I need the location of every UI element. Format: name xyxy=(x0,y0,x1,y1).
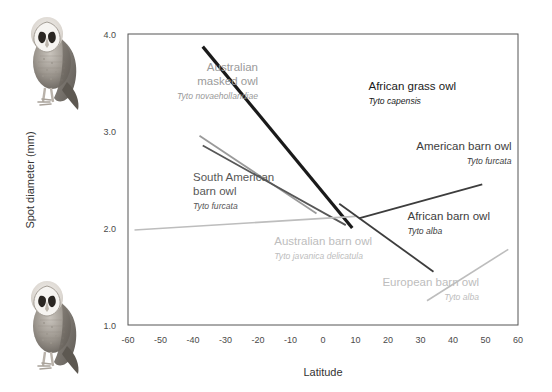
x-axis-ticks: -60-50-40-30-20-100102030405060 xyxy=(121,335,523,345)
series-annotation: South Americanbarn owlTyto furcata xyxy=(193,171,274,211)
series-scientific-name: Tyto javanica delicatula xyxy=(274,251,363,261)
x-tick-label: -10 xyxy=(284,335,297,345)
series-annotation: American barn owlTyto furcata xyxy=(416,140,511,166)
series-annotation: Australian barn owlTyto javanica delicat… xyxy=(274,235,372,261)
series-common-name: South American xyxy=(193,171,274,183)
x-tick-label: -50 xyxy=(154,335,167,345)
series-scientific-name: Tyto furcata xyxy=(193,201,238,211)
x-tick-label: 30 xyxy=(415,335,425,345)
y-axis-ticks: 1.02.03.04.0 xyxy=(103,30,116,331)
series-scientific-name: Tyto alba xyxy=(408,226,443,236)
series-annotation: African barn owlTyto alba xyxy=(408,210,490,236)
series-common-name: African barn owl xyxy=(408,210,490,222)
series-common-name: Australian barn owl xyxy=(274,235,372,247)
series-common-name: African grass owl xyxy=(369,80,457,92)
x-tick-label: 40 xyxy=(448,335,458,345)
series-common-name: Australian xyxy=(207,61,258,73)
series-annotation: African grass owlTyto capensis xyxy=(369,80,457,106)
y-axis-title: Spot diameter (mm) xyxy=(24,131,36,228)
barn-owl-illustration-top xyxy=(31,17,79,110)
x-tick-label: -40 xyxy=(186,335,199,345)
series-scientific-name: Tyto furcata xyxy=(467,156,512,166)
series-scientific-name: Tyto capensis xyxy=(369,96,422,106)
y-tick-label: 1.0 xyxy=(103,321,116,331)
series-common-name: European barn owl xyxy=(382,276,479,288)
series-common-name: masked owl xyxy=(197,75,258,87)
series-common-name: American barn owl xyxy=(416,140,511,152)
x-axis-title: Latitude xyxy=(303,366,342,378)
series-annotations: African grass owlTyto capensisAustralian… xyxy=(177,61,512,302)
x-tick-label: -30 xyxy=(219,335,232,345)
x-tick-label: 50 xyxy=(480,335,490,345)
x-tick-label: -60 xyxy=(121,335,134,345)
owl-spot-diameter-figure: -60-50-40-30-20-100102030405060 1.02.03.… xyxy=(0,0,552,392)
series-line xyxy=(135,216,356,230)
x-tick-label: 10 xyxy=(350,335,360,345)
y-tick-label: 4.0 xyxy=(103,30,116,40)
y-tick-label: 2.0 xyxy=(103,224,116,234)
x-tick-label: 60 xyxy=(513,335,523,345)
series-scientific-name: Tyto alba xyxy=(444,292,479,302)
x-tick-label: 0 xyxy=(320,335,325,345)
x-tick-label: -20 xyxy=(251,335,264,345)
chart-canvas: -60-50-40-30-20-100102030405060 1.02.03.… xyxy=(0,0,552,392)
x-tick-label: 20 xyxy=(383,335,393,345)
series-scientific-name: Tyto novaehollandiae xyxy=(177,91,258,101)
series-annotation: Australianmasked owlTyto novaehollandiae xyxy=(177,61,258,101)
series-common-name: barn owl xyxy=(193,185,236,197)
barn-owl-illustration-bottom xyxy=(31,281,79,374)
y-tick-label: 3.0 xyxy=(103,127,116,137)
